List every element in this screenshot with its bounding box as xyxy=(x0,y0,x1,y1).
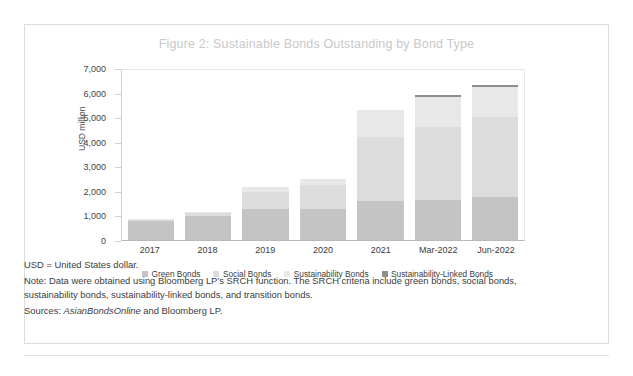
x-tick-label: 2017 xyxy=(127,245,173,255)
sources-prefix: Sources: xyxy=(24,305,64,316)
stacked-bar xyxy=(185,212,231,240)
x-tick-label: 2020 xyxy=(300,245,346,255)
bar-segment xyxy=(357,110,403,137)
note-methodology: Note: Data were obtained using Bloomberg… xyxy=(24,274,569,303)
y-tick-label: 7,000 xyxy=(60,69,106,79)
bar-group xyxy=(122,70,524,240)
bar-segment xyxy=(300,185,346,209)
sources-suffix: and Bloomberg LP. xyxy=(141,305,223,316)
x-tick-label: 2021 xyxy=(357,245,403,255)
stacked-bar xyxy=(128,219,174,240)
x-tick-label: Mar-2022 xyxy=(415,245,461,255)
sources-italic: AsianBondsOnline xyxy=(64,305,141,316)
bar-segment xyxy=(472,197,518,240)
bar-segment xyxy=(357,201,403,240)
bar-slot xyxy=(357,70,403,240)
bar-segment xyxy=(185,216,231,240)
bar-slot xyxy=(415,70,461,240)
bar-segment xyxy=(242,209,288,240)
plot-area xyxy=(121,69,525,241)
x-tick-label: Jun-2022 xyxy=(473,245,519,255)
stacked-bar xyxy=(415,95,461,240)
note-abbreviation: USD = United States dollar. xyxy=(24,258,569,272)
bar-slot xyxy=(185,70,231,240)
y-tick-label: 1,000 xyxy=(60,216,106,226)
y-tick-label: 4,000 xyxy=(60,143,106,153)
x-axis-ticks: 20172018201920202021Mar-2022Jun-2022 xyxy=(121,245,525,255)
stacked-bar xyxy=(357,110,403,240)
bar-segment xyxy=(300,179,346,186)
bar-segment xyxy=(128,221,174,240)
y-tick-label: 0 xyxy=(60,241,106,251)
bar-segment xyxy=(472,117,518,197)
stacked-bar xyxy=(300,179,346,240)
y-tick-mark xyxy=(115,241,121,242)
y-tick-label: 3,000 xyxy=(60,167,106,177)
x-tick-label: 2019 xyxy=(242,245,288,255)
bar-segment xyxy=(415,127,461,201)
x-tick-label: 2018 xyxy=(184,245,230,255)
figure-notes: USD = United States dollar. Note: Data w… xyxy=(24,258,569,320)
stacked-bar xyxy=(242,187,288,240)
figure-title: Figure 2: Sustainable Bonds Outstanding … xyxy=(25,37,608,51)
bar-segment xyxy=(300,209,346,240)
stacked-bar xyxy=(472,85,518,240)
bar-segment xyxy=(357,137,403,201)
bar-slot xyxy=(300,70,346,240)
chart: USD million 01,0002,0003,0004,0005,0006,… xyxy=(25,63,610,275)
y-tick-label: 5,000 xyxy=(60,118,106,128)
note-sources: Sources: AsianBondsOnline and Bloomberg … xyxy=(24,304,569,318)
bar-segment xyxy=(472,87,518,117)
y-tick-label: 6,000 xyxy=(60,94,106,104)
page-divider xyxy=(24,355,609,356)
bar-slot xyxy=(128,70,174,240)
bar-segment xyxy=(242,192,288,209)
figure-page: Figure 2: Sustainable Bonds Outstanding … xyxy=(0,0,633,376)
bar-segment xyxy=(415,200,461,240)
bar-slot xyxy=(472,70,518,240)
bar-slot xyxy=(242,70,288,240)
bar-segment xyxy=(415,97,461,127)
y-tick-label: 2,000 xyxy=(60,192,106,202)
